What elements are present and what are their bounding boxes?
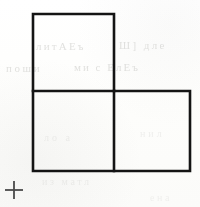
scanned-page: литАЕъ Ш] дле поши ми с ЕлЕъ ло а нил из… [0,0,200,207]
tromino-outline-path [33,14,190,171]
tromino-figure [0,0,200,207]
registration-crosshair-icon [5,181,23,199]
